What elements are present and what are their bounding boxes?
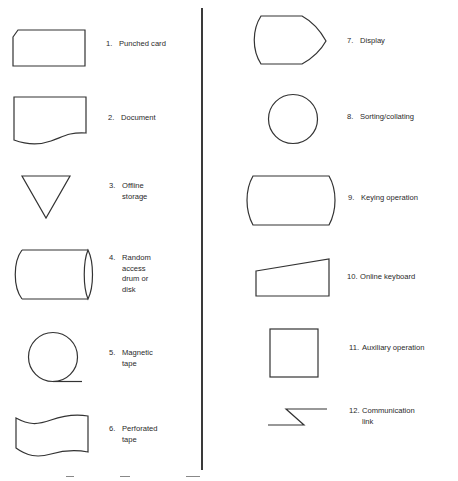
symbol-label-2: 2. Document — [108, 113, 156, 124]
online-keyboard-icon — [255, 257, 333, 299]
column-divider — [201, 8, 203, 470]
communication-link-icon — [267, 406, 329, 428]
sorting-collating-icon — [266, 92, 320, 146]
magnetic-tape-icon — [27, 330, 85, 384]
symbol-label-5: 5. Magnetic tape — [109, 348, 153, 369]
symbol-label-9: 9. Keying operation — [348, 193, 418, 204]
symbol-label-7: 7. Display — [347, 36, 385, 47]
caption-fragment — [186, 476, 200, 477]
caption-fragment — [66, 476, 74, 477]
symbol-label-11: 11. Auxiliary operation — [349, 343, 424, 354]
random-access-drum-icon — [13, 248, 97, 302]
symbol-label-10: 10. Online keyboard — [347, 272, 415, 283]
caption-fragment — [120, 476, 130, 477]
keying-operation-icon — [245, 174, 339, 228]
symbol-label-12: 12. Communication link — [349, 406, 415, 427]
symbol-label-3: 3. Offline storage — [109, 181, 147, 202]
punched-card-icon — [12, 28, 88, 68]
symbol-label-8: 8. Sorting/collating — [347, 112, 414, 123]
perforated-tape-icon — [15, 412, 91, 456]
symbol-label-6: 6. Perforated tape — [109, 424, 157, 445]
display-icon — [253, 14, 331, 66]
symbol-label-4: 4. Random access drum or disk — [109, 253, 151, 295]
symbol-label-1: 1. Punched card — [106, 39, 166, 50]
offline-storage-icon — [21, 174, 73, 220]
auxiliary-operation-icon — [268, 327, 320, 379]
document-icon — [13, 95, 89, 147]
